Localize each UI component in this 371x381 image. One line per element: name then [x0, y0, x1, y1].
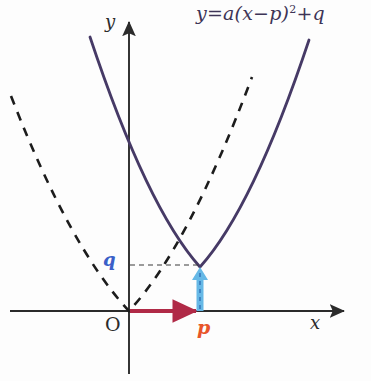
equation-rhs-head: a(x−p) [223, 2, 289, 24]
base-parabola-curve [11, 77, 252, 311]
x-axis-label: x [310, 314, 320, 332]
q-annotation-label: q [103, 251, 116, 269]
p-annotation-label: p [197, 318, 210, 337]
y-axis-label: y [105, 13, 115, 31]
equation-equals: = [207, 2, 223, 24]
equation-label: y=a(x−p)2+q [196, 4, 325, 23]
figure-canvas: y=a(x−p)2+q y x O q p [0, 0, 371, 381]
equation-rhs-tail: +q [296, 2, 324, 24]
origin-label: O [105, 315, 121, 334]
translated-parabola-curve [90, 37, 309, 267]
equation-lhs: y [196, 2, 207, 24]
